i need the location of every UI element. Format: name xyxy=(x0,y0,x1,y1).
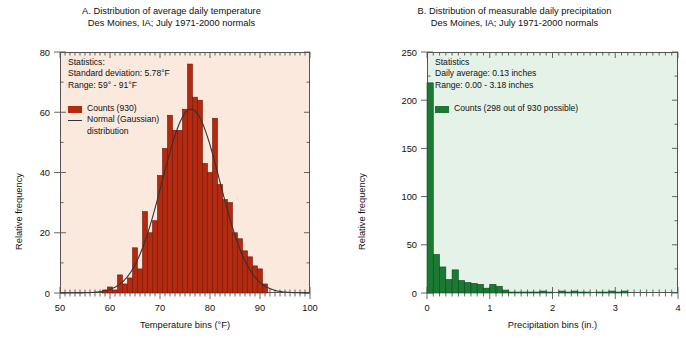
panel-b-stats-average: Daily average: 0.13 inches xyxy=(435,68,536,79)
svg-text:20: 20 xyxy=(40,228,50,238)
panel-a-stats-range: Range: 59° - 91°F xyxy=(68,80,170,91)
svg-text:200: 200 xyxy=(401,96,417,106)
panel-b-precipitation: B. Distribution of measurable daily prec… xyxy=(343,0,686,348)
panel-b-statistics-box: Statistics Daily average: 0.13 inches Ra… xyxy=(435,57,536,91)
panel-a-legend: Counts (930) Normal (Gaussian) distribut… xyxy=(68,103,159,137)
panel-a-stats-sd: Standard deviation: 5.78°F xyxy=(68,68,170,79)
panel-b-title: B. Distribution of measurable daily prec… xyxy=(343,6,686,29)
svg-text:60: 60 xyxy=(40,108,50,118)
legend-normal-label: Normal (Gaussian) xyxy=(87,114,159,125)
legend-counts-label: Counts (930) xyxy=(87,103,137,114)
legend-item-counts: Counts (298 out of 930 possible) xyxy=(435,103,578,114)
svg-text:70: 70 xyxy=(155,303,165,313)
panel-b-y-axis-label: Relative frequency xyxy=(357,173,367,250)
counts-swatch-icon xyxy=(68,106,82,113)
panel-a-temperature: A. Distribution of average daily tempera… xyxy=(0,0,343,348)
svg-text:60: 60 xyxy=(105,303,115,313)
svg-text:150: 150 xyxy=(401,144,417,154)
panel-b-stats-range: Range: 0.00 - 3.18 inches xyxy=(435,80,536,91)
svg-text:0: 0 xyxy=(424,303,429,313)
svg-text:0: 0 xyxy=(45,289,50,299)
svg-text:50: 50 xyxy=(55,303,65,313)
svg-text:250: 250 xyxy=(401,48,417,58)
panel-a-stats-heading: Statistics: xyxy=(68,57,170,68)
panel-a-statistics-box: Statistics: Standard deviation: 5.78°F R… xyxy=(68,57,170,91)
panel-a-subtitle: Des Moines, IA; July 1971-2000 normals xyxy=(0,18,343,30)
panel-b-subtitle: Des Moines, IA; July 1971-2000 normals xyxy=(343,18,686,30)
normal-curve-line-icon xyxy=(68,117,82,124)
panel-a-title-line1: A. Distribution of average daily tempera… xyxy=(0,6,343,18)
svg-text:80: 80 xyxy=(205,303,215,313)
svg-text:3: 3 xyxy=(613,303,618,313)
two-panel-histogram-figure: A. Distribution of average daily tempera… xyxy=(0,0,686,348)
legend-counts-label: Counts (298 out of 930 possible) xyxy=(454,103,578,114)
panel-b-title-line1: B. Distribution of measurable daily prec… xyxy=(343,6,686,18)
svg-text:100: 100 xyxy=(302,303,318,313)
panel-b-stats-heading: Statistics xyxy=(435,57,536,68)
panel-b-legend: Counts (298 out of 930 possible) xyxy=(435,103,578,114)
svg-text:0: 0 xyxy=(412,289,417,299)
svg-text:50: 50 xyxy=(407,240,417,250)
svg-text:80: 80 xyxy=(40,48,50,58)
panel-a-x-axis-label: Temperature bins (°F) xyxy=(60,320,310,330)
counts-swatch-icon xyxy=(435,106,449,113)
legend-item-counts: Counts (930) xyxy=(68,103,159,114)
panel-a-y-axis-label: Relative frequency xyxy=(14,173,24,250)
svg-text:1: 1 xyxy=(487,303,492,313)
svg-text:2: 2 xyxy=(550,303,555,313)
panel-a-title: A. Distribution of average daily tempera… xyxy=(0,6,343,29)
svg-text:100: 100 xyxy=(401,192,417,202)
panel-b-x-axis-label: Precipitation bins (in.) xyxy=(427,320,678,330)
svg-text:90: 90 xyxy=(255,303,265,313)
svg-text:4: 4 xyxy=(675,303,680,313)
legend-item-normal-curve: Normal (Gaussian) xyxy=(68,114,159,125)
legend-normal-label-line2: distribution xyxy=(87,126,159,137)
svg-text:40: 40 xyxy=(40,168,50,178)
